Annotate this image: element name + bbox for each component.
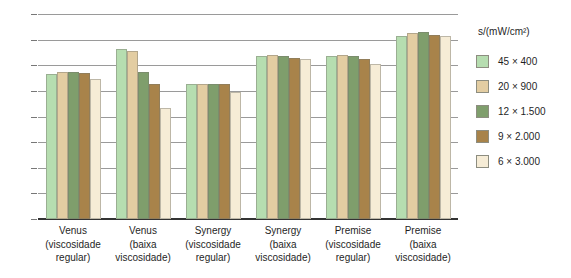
legend-swatch-icon xyxy=(476,80,489,93)
y-tick-mark-50 xyxy=(31,91,37,92)
bar xyxy=(57,72,68,219)
legend: s/(mW/cm²) 45 × 40020 × 90012 × 1.5009 ×… xyxy=(476,26,568,174)
y-tick-mark-40 xyxy=(31,117,37,118)
x-axis-label-line: regular) xyxy=(178,251,248,265)
legend-swatch-icon xyxy=(476,130,489,143)
bar xyxy=(138,72,149,219)
bar xyxy=(370,64,381,219)
legend-item-label: 9 × 2.000 xyxy=(498,131,540,142)
bar xyxy=(348,56,359,219)
legend-item[interactable]: 6 × 3.000 xyxy=(476,149,568,174)
x-axis-label-line: (viscosidade xyxy=(38,238,108,252)
bar-group xyxy=(108,14,178,219)
bar xyxy=(396,36,407,219)
bars-layer xyxy=(38,14,458,219)
x-axis-label-line: (baixa xyxy=(388,238,458,252)
x-axis-label-line: Synergy xyxy=(248,224,318,238)
bar xyxy=(149,84,160,219)
y-tick-mark-30 xyxy=(31,142,37,143)
bar xyxy=(208,84,219,219)
bar xyxy=(197,84,208,219)
bar xyxy=(90,79,101,219)
y-tick-mark-0 xyxy=(31,219,37,220)
x-axis-label-line: viscosidade) xyxy=(248,251,318,265)
bar-chart: 01020304050607080 Venus(viscosidaderegul… xyxy=(0,0,571,278)
bar xyxy=(79,73,90,219)
bar xyxy=(160,108,171,219)
bar-group xyxy=(388,14,458,219)
bar xyxy=(68,72,79,219)
x-axis-label-line: viscosidade) xyxy=(388,251,458,265)
x-axis-label-line: regular) xyxy=(38,251,108,265)
legend-item[interactable]: 45 × 400 xyxy=(476,49,568,74)
x-axis-label: Premise(baixaviscosidade) xyxy=(388,224,458,265)
x-axis-label-line: viscosidade) xyxy=(108,251,178,265)
legend-swatch-icon xyxy=(476,105,489,118)
x-axis-label-line: regular) xyxy=(318,251,388,265)
bar-group xyxy=(178,14,248,219)
bar-group xyxy=(248,14,318,219)
y-tick-mark-10 xyxy=(31,193,37,194)
bar xyxy=(267,55,278,219)
bar xyxy=(300,59,311,219)
bar xyxy=(278,56,289,219)
bar xyxy=(116,49,127,219)
legend-item-label: 45 × 400 xyxy=(498,56,537,67)
bar xyxy=(186,84,197,219)
legend-swatch-icon xyxy=(476,155,489,168)
x-axis-label: Venus(viscosidaderegular) xyxy=(38,224,108,265)
x-axis-label-line: Premise xyxy=(388,224,458,238)
x-axis-label-line: Venus xyxy=(108,224,178,238)
bar xyxy=(337,55,348,219)
x-axis-label-line: Synergy xyxy=(178,224,248,238)
y-tick-mark-60 xyxy=(31,65,37,66)
bar-group xyxy=(318,14,388,219)
y-tick-mark-80 xyxy=(31,14,37,15)
plot-area: 01020304050607080 xyxy=(38,14,458,219)
x-axis-label: Synergy(viscosidaderegular) xyxy=(178,224,248,265)
bar xyxy=(219,84,230,219)
bar xyxy=(418,32,429,219)
x-axis-label-line: (baixa xyxy=(108,238,178,252)
bar xyxy=(46,74,57,219)
bar xyxy=(359,59,370,219)
x-axis-label-line: (baixa xyxy=(248,238,318,252)
legend-items: 45 × 40020 × 90012 × 1.5009 × 2.0006 × 3… xyxy=(476,49,568,174)
legend-item[interactable]: 12 × 1.500 xyxy=(476,99,568,124)
legend-item-label: 6 × 3.000 xyxy=(498,156,540,167)
bar xyxy=(230,92,241,219)
bar-group xyxy=(38,14,108,219)
x-axis-label-line: Premise xyxy=(318,224,388,238)
legend-item[interactable]: 20 × 900 xyxy=(476,74,568,99)
bar xyxy=(429,35,440,220)
x-axis-label: Premise(viscosidaderegular) xyxy=(318,224,388,265)
legend-item[interactable]: 9 × 2.000 xyxy=(476,124,568,149)
y-tick-mark-70 xyxy=(31,40,37,41)
legend-swatch-icon xyxy=(476,55,489,68)
legend-item-label: 12 × 1.500 xyxy=(498,106,546,117)
x-axis-label-line: (viscosidade xyxy=(178,238,248,252)
legend-title: s/(mW/cm²) xyxy=(478,26,568,37)
bar xyxy=(289,58,300,219)
y-tick-mark-20 xyxy=(31,168,37,169)
bar xyxy=(256,56,267,219)
x-axis-label-line: Venus xyxy=(38,224,108,238)
bar xyxy=(440,36,451,219)
bar xyxy=(127,51,138,219)
x-axis-label: Venus(baixaviscosidade) xyxy=(108,224,178,265)
x-axis-labels: Venus(viscosidaderegular)Venus(baixavisc… xyxy=(38,224,458,276)
x-axis-label-line: (viscosidade xyxy=(318,238,388,252)
bar xyxy=(326,56,337,219)
x-axis-label: Synergy(baixaviscosidade) xyxy=(248,224,318,265)
legend-item-label: 20 × 900 xyxy=(498,81,537,92)
bar xyxy=(407,33,418,219)
